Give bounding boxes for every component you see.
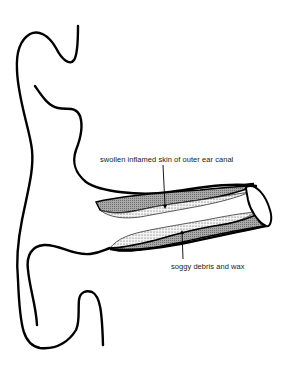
- antihelix-outline: [35, 86, 256, 194]
- label-debris-wax: soggy debris and wax: [171, 262, 245, 271]
- tragus-outline: [28, 245, 110, 325]
- pinna-outline: [17, 26, 103, 348]
- lower-swollen-skin: [110, 215, 266, 251]
- ear-canal-diagram: [0, 0, 286, 379]
- label-swollen-skin: swollen inflamed skin of outer ear canal: [100, 155, 233, 164]
